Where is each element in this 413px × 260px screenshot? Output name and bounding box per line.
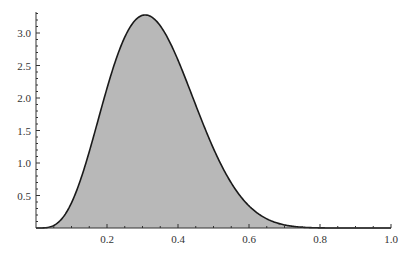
x-tick-label: 0.6 (242, 233, 256, 245)
y-axis: 0.51.01.52.02.53.0 (17, 12, 40, 228)
plot-area (36, 15, 391, 228)
x-tick-label: 1.0 (384, 233, 398, 245)
density-chart: 0.20.40.60.81.0 0.51.01.52.02.53.0 (0, 0, 413, 260)
y-tick-label: 1.0 (17, 157, 31, 169)
y-tick-label: 2.5 (17, 60, 31, 72)
x-tick-label: 0.2 (100, 233, 114, 245)
x-tick-label: 0.8 (313, 233, 327, 245)
y-tick-label: 2.0 (17, 92, 31, 104)
y-tick-label: 0.5 (17, 190, 31, 202)
x-tick-label: 0.4 (171, 233, 185, 245)
y-tick-label: 1.5 (17, 125, 31, 137)
y-tick-label: 3.0 (17, 27, 31, 39)
density-area (36, 15, 391, 228)
